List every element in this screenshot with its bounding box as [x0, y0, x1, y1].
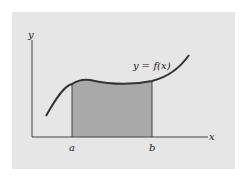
y-axis-label: y: [27, 29, 34, 40]
lower-bound-label: a: [69, 142, 75, 153]
area-under-curve-diagram: y x y = f(x) a b: [0, 0, 245, 182]
upper-bound-label: b: [149, 142, 155, 153]
shaded-area: [72, 80, 152, 137]
curve-label: y = f(x): [132, 60, 171, 71]
x-axis-label: x: [209, 131, 215, 142]
